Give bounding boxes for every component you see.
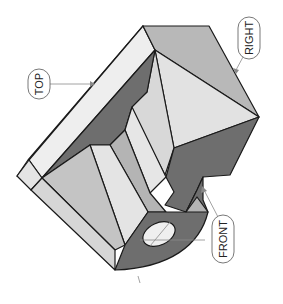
right-leader bbox=[236, 57, 243, 70]
front-arrowhead bbox=[201, 186, 207, 193]
top-label: TOP bbox=[33, 73, 45, 95]
right-label: RIGHT bbox=[243, 21, 255, 56]
isometric-drawing: TOP RIGHT FRONT bbox=[0, 0, 283, 304]
hole-centerline-tail bbox=[138, 276, 140, 283]
front-label: FRONT bbox=[217, 220, 229, 258]
